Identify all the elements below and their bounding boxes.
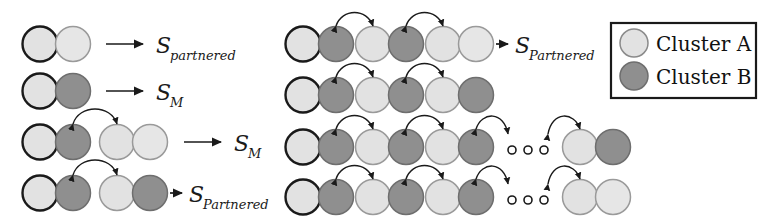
node-cluster-b bbox=[459, 130, 494, 165]
node-cluster-a bbox=[100, 176, 135, 211]
ellipsis-dot bbox=[508, 196, 516, 204]
ellipsis-dot bbox=[508, 146, 516, 154]
matching-chain-figure: S partnered S M S M bbox=[0, 0, 779, 222]
label-S: S bbox=[156, 80, 171, 105]
node-cluster-a bbox=[459, 27, 494, 62]
legend-label-cluster-a: Cluster A bbox=[656, 32, 752, 56]
label-subscript: M bbox=[247, 146, 262, 161]
node-cluster-a bbox=[426, 180, 461, 215]
node-cluster-a bbox=[356, 180, 391, 215]
label-subscript: Partnered bbox=[202, 197, 269, 212]
cluster-a-swatch bbox=[620, 29, 648, 57]
ellipsis-dot bbox=[524, 196, 532, 204]
node-cluster-b bbox=[319, 130, 354, 165]
node-cluster-a bbox=[23, 176, 58, 211]
node-cluster-b bbox=[319, 78, 354, 113]
node-cluster-a bbox=[56, 27, 91, 62]
node-cluster-a bbox=[133, 125, 168, 160]
node-cluster-b bbox=[459, 180, 494, 215]
ellipsis-dot bbox=[540, 146, 548, 154]
ellipsis-dots bbox=[508, 196, 548, 204]
node-cluster-a bbox=[286, 78, 321, 113]
node-cluster-b bbox=[133, 176, 168, 211]
node-cluster-a bbox=[356, 130, 391, 165]
node-cluster-b bbox=[389, 78, 424, 113]
node-cluster-b bbox=[56, 74, 91, 109]
node-cluster-a bbox=[23, 27, 58, 62]
label-subscript: Partnered bbox=[528, 48, 595, 63]
label-S: S bbox=[515, 33, 530, 58]
label-S: S bbox=[156, 33, 171, 58]
node-cluster-b bbox=[596, 130, 631, 165]
node-cluster-a bbox=[426, 27, 461, 62]
label-S: S bbox=[189, 182, 204, 207]
label-S: S bbox=[234, 131, 249, 156]
legend-item-cluster-a: Cluster A bbox=[620, 29, 752, 57]
node-cluster-b bbox=[389, 130, 424, 165]
node-cluster-a bbox=[23, 125, 58, 160]
node-cluster-b bbox=[56, 125, 91, 160]
node-cluster-b bbox=[389, 180, 424, 215]
node-cluster-a bbox=[286, 27, 321, 62]
cluster-legend: Cluster A Cluster B bbox=[611, 23, 756, 98]
node-cluster-b bbox=[319, 180, 354, 215]
node-cluster-a bbox=[23, 74, 58, 109]
node-cluster-b bbox=[56, 176, 91, 211]
ellipsis-dot bbox=[524, 146, 532, 154]
node-cluster-a bbox=[356, 78, 391, 113]
cluster-b-swatch bbox=[620, 62, 648, 90]
node-cluster-b bbox=[319, 27, 354, 62]
node-cluster-a bbox=[426, 130, 461, 165]
node-cluster-a bbox=[596, 180, 631, 215]
node-cluster-b bbox=[459, 78, 494, 113]
node-cluster-a bbox=[563, 130, 598, 165]
node-cluster-a bbox=[100, 125, 135, 160]
legend-label-cluster-b: Cluster B bbox=[656, 65, 751, 89]
node-cluster-a bbox=[286, 180, 321, 215]
node-cluster-b bbox=[389, 27, 424, 62]
legend-item-cluster-b: Cluster B bbox=[620, 62, 751, 90]
label-subscript: M bbox=[169, 95, 184, 110]
node-cluster-a bbox=[356, 27, 391, 62]
node-cluster-a bbox=[563, 180, 598, 215]
label-subscript: partnered bbox=[170, 48, 236, 63]
ellipsis-dots bbox=[508, 146, 548, 154]
node-cluster-a bbox=[286, 130, 321, 165]
ellipsis-dot bbox=[540, 196, 548, 204]
node-cluster-a bbox=[426, 78, 461, 113]
